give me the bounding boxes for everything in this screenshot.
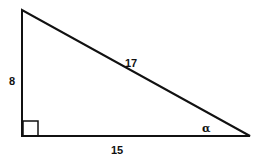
right-triangle	[22, 10, 250, 136]
horizontal-leg-label: 15	[111, 144, 123, 156]
right-angle-marker	[23, 121, 38, 136]
angle-alpha-label: α	[202, 122, 211, 135]
vertical-leg-label: 8	[9, 75, 15, 87]
hypotenuse-label: 17	[125, 57, 137, 69]
triangle-diagram: 8 17 15 α	[0, 0, 263, 161]
